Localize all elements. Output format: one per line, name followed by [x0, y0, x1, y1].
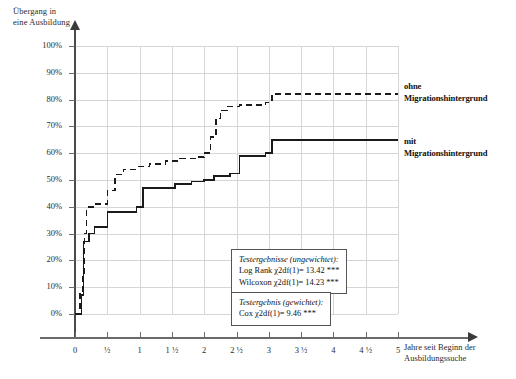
chart-figure: Übergang in eine Ausbildung Jahre seit B…	[0, 0, 516, 379]
legend-label-ohne-migrationshintergrund: ohne Migrationshintergrund	[404, 81, 487, 104]
statbox-unweighted-title: Testergebnisse (ungewichtet):	[239, 254, 339, 265]
statbox-weighted-title: Testergebnis (gewichtet):	[239, 297, 323, 308]
statbox-unweighted: Testergebnisse (ungewichtet): Log Rank χ…	[231, 249, 347, 294]
statbox-weighted: Testergebnis (gewichtet): Cox χ2df(1)= 9…	[231, 292, 331, 326]
statbox-weighted-cox: Cox χ2df(1)= 9.46 ***	[239, 308, 323, 319]
legend-label-mit-migrationshintergrund: mit Migrationshintergrund	[404, 136, 487, 159]
statbox-unweighted-wilcoxon: Wilcoxon χ2df(1)= 14.23 ***	[239, 277, 339, 288]
statbox-unweighted-log-rank: Log Rank χ2df(1)= 13.42 ***	[239, 265, 339, 276]
